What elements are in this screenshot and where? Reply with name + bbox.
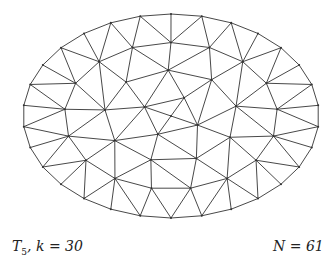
mesh-edge	[171, 43, 209, 48]
mesh-edge	[277, 105, 318, 109]
mesh-edge	[266, 65, 299, 83]
mesh-edge	[274, 127, 319, 136]
mesh-edge	[24, 105, 65, 109]
mesh-edge	[196, 137, 230, 158]
mesh-edge	[105, 107, 145, 110]
mesh-edge	[132, 43, 170, 48]
mesh-edge	[198, 106, 237, 125]
mesh-vertex	[170, 42, 172, 44]
mesh-edge	[266, 83, 277, 109]
mesh-edge	[140, 16, 171, 42]
mesh-edge	[274, 109, 278, 136]
mesh-edge	[115, 160, 151, 179]
mesh-vertex	[131, 47, 133, 49]
mesh-edge	[69, 136, 86, 160]
mesh-edge	[111, 23, 133, 48]
mesh-vertex	[280, 47, 282, 49]
mesh-edge	[227, 178, 258, 198]
mesh-edge	[132, 16, 140, 47]
mesh-edge	[65, 109, 105, 110]
mesh-vertex	[29, 83, 31, 85]
mesh-edge	[191, 188, 202, 216]
mesh-edge	[140, 216, 171, 218]
mesh-vertex	[110, 208, 112, 210]
mesh-vertex	[230, 208, 232, 210]
mesh-edge	[99, 23, 111, 62]
mesh-vertex	[139, 215, 141, 217]
mesh-vertex	[64, 108, 66, 110]
mesh-edge	[126, 82, 144, 107]
mesh-edge	[61, 33, 84, 47]
mesh-vertex	[317, 126, 319, 128]
mesh-edge	[236, 83, 266, 106]
mesh-vertex	[42, 64, 44, 66]
mesh-edge	[111, 178, 115, 209]
mesh-vertex	[60, 183, 62, 185]
mesh-edge	[24, 109, 65, 126]
mesh-edge	[30, 83, 75, 84]
mesh-edge	[196, 125, 197, 158]
mesh-edge	[231, 23, 243, 62]
mesh-vertex	[170, 217, 172, 219]
mesh-edge	[184, 80, 211, 98]
mesh-vertex	[211, 79, 213, 81]
mesh-edge	[202, 16, 210, 47]
mesh-edge	[99, 48, 132, 62]
mesh-edge	[105, 82, 126, 110]
mesh-vertex	[265, 82, 267, 84]
mesh-edge	[212, 62, 243, 80]
mesh-edge	[30, 65, 43, 84]
mesh-vertex	[276, 108, 278, 110]
mesh-edge	[256, 136, 273, 160]
mesh-edge	[43, 48, 61, 65]
mesh-edge	[299, 148, 312, 167]
mesh-edge	[84, 199, 111, 210]
mesh-edge	[76, 83, 105, 110]
mesh-vertex	[230, 22, 232, 24]
mesh-vertex	[317, 104, 319, 106]
mesh-edge	[115, 107, 145, 141]
mesh-vertex	[125, 81, 127, 83]
mesh-edge	[24, 127, 30, 148]
mesh-edge	[230, 136, 273, 137]
mesh-vertex	[83, 32, 85, 34]
mesh-edge	[312, 84, 318, 105]
mesh-vertex	[68, 135, 70, 137]
mesh-vertex	[311, 83, 313, 85]
mesh-edge	[236, 62, 243, 106]
mesh-vertex	[280, 183, 282, 185]
mesh-edge	[171, 188, 191, 218]
mesh-edge	[198, 125, 231, 137]
mesh-vertex	[114, 177, 116, 179]
mesh-edge	[277, 84, 312, 109]
label-symbol: T	[12, 238, 21, 254]
mesh-edge	[258, 33, 281, 47]
mesh-vertex	[298, 64, 300, 66]
mesh-vertex	[273, 135, 275, 137]
mesh-edge	[227, 178, 231, 209]
mesh-edge	[171, 14, 202, 16]
mesh-vertex	[183, 97, 185, 99]
mesh-vertex	[75, 82, 77, 84]
mesh-vertex	[150, 187, 152, 189]
mesh-edge	[30, 148, 43, 167]
mesh-edge	[158, 134, 197, 158]
mesh-edge	[115, 134, 158, 140]
mesh-vertex	[170, 115, 172, 117]
mesh-edge	[231, 199, 258, 210]
mesh-vertex	[110, 22, 112, 24]
mesh-edge	[84, 23, 111, 34]
mesh-edge	[86, 141, 115, 161]
mesh-edge	[266, 83, 311, 84]
mesh-edge	[69, 110, 105, 136]
mesh-vertex	[85, 159, 87, 161]
mesh-edge	[24, 127, 69, 136]
mesh-edge	[299, 65, 312, 84]
mesh-edge	[171, 16, 202, 42]
mesh-vertex	[167, 69, 169, 71]
mesh-vertex	[170, 13, 172, 15]
mesh-edge	[258, 184, 281, 198]
mesh-edge	[43, 167, 61, 184]
mesh-edge	[227, 160, 256, 178]
mesh-edge	[191, 158, 197, 188]
